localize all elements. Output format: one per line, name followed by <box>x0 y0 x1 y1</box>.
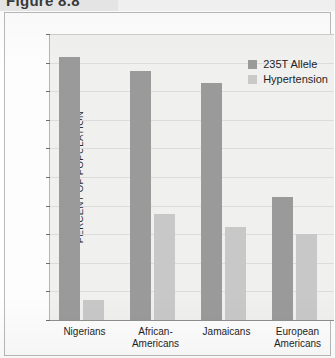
gridline-60 <box>50 148 334 149</box>
figure-title-band: Figure 8.8 <box>0 0 335 11</box>
x-axis-label-line: European <box>262 326 333 338</box>
y-tick-mark-90 <box>46 63 50 64</box>
legend-label-0: 235T Allele <box>263 58 317 70</box>
bar-0-0 <box>59 57 80 320</box>
y-tick-mark-50 <box>46 177 50 178</box>
x-axis-label-line: Nigerians <box>49 326 120 338</box>
y-tick-mark-100 <box>46 34 50 35</box>
gridline-70 <box>50 120 334 121</box>
y-tick-mark-0 <box>46 320 50 321</box>
bar-2-1 <box>225 227 246 320</box>
bar-3-1 <box>296 234 317 320</box>
legend-swatch-icon-0 <box>248 60 257 69</box>
x-axis-label-line: African- <box>120 326 191 338</box>
legend-label-1: Hypertension <box>263 73 328 85</box>
figure-title: Figure 8.8 <box>6 0 80 11</box>
title-band-tint <box>118 0 335 11</box>
bar-1-0 <box>130 71 151 320</box>
bar-1-1 <box>154 214 175 320</box>
x-axis-label-1: African-Americans <box>120 326 191 350</box>
bar-2-0 <box>201 83 222 320</box>
y-tick-mark-80 <box>46 91 50 92</box>
y-tick-mark-40 <box>46 206 50 207</box>
y-tick-mark-10 <box>46 291 50 292</box>
bar-0-1 <box>83 300 104 320</box>
legend-swatch-icon-1 <box>248 75 257 84</box>
gridline-50 <box>50 177 334 178</box>
plot-area: PERCENT OF POPULATION 100908070605040302… <box>49 34 334 321</box>
x-axis-label-line: Jamaicans <box>191 326 262 338</box>
x-axis-label-2: Jamaicans <box>191 326 262 338</box>
y-tick-mark-60 <box>46 148 50 149</box>
legend-item-0: 235T Allele <box>248 58 328 70</box>
x-axis-label-0: Nigerians <box>49 326 120 338</box>
x-axis-label-line: Americans <box>262 338 333 350</box>
y-tick-mark-70 <box>46 120 50 121</box>
legend-item-1: Hypertension <box>248 73 328 85</box>
chart-frame: PERCENT OF POPULATION 100908070605040302… <box>4 12 331 356</box>
x-axis-label-line: Americans <box>120 338 191 350</box>
y-tick-mark-30 <box>46 234 50 235</box>
y-tick-mark-20 <box>46 263 50 264</box>
x-axis-label-3: EuropeanAmericans <box>262 326 333 350</box>
chart-legend: 235T Allele Hypertension <box>248 58 328 88</box>
gridline-80 <box>50 91 334 92</box>
gridline-100 <box>50 34 334 35</box>
bar-3-0 <box>272 197 293 320</box>
